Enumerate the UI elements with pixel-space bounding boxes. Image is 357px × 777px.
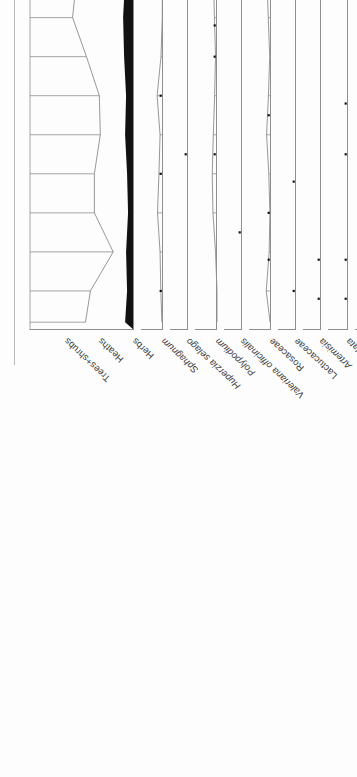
panel-baseline — [295, 0, 296, 330]
panel-valeriana-officinalis — [224, 0, 242, 330]
series-trees-shrubs-fill — [120, 0, 134, 330]
taxon-label-summary-0: Herbs — [129, 336, 155, 362]
panel-graph — [30, 0, 134, 330]
panel-baseline — [133, 0, 134, 330]
panel-baseline — [320, 0, 321, 330]
panel-graph — [170, 0, 188, 330]
taxon-label-summary-1: Heaths — [95, 336, 125, 365]
panel-value-axis — [170, 329, 188, 330]
panel-value-axis — [224, 329, 242, 330]
panel-baseline — [241, 0, 242, 330]
panel-baseline — [216, 0, 217, 330]
panel-summary — [30, 0, 134, 330]
panel-graph — [328, 0, 348, 330]
panel-value-axis — [278, 329, 296, 330]
panel-huperzia-selago — [170, 0, 188, 330]
panel-baseline — [270, 0, 271, 330]
panel-baseline — [162, 0, 163, 330]
rotated-figure-wrapper: 20406080100HerbsHeathsTrees+shrubsSphagn… — [0, 0, 357, 420]
pollen-diagram: 20406080100HerbsHeathsTrees+shrubsSphagn… — [0, 0, 357, 420]
panel-baseline — [347, 0, 348, 330]
series-heaths-line — [68, 0, 114, 322]
panel-graph — [224, 0, 242, 330]
panel-baseline — [187, 0, 188, 330]
panel-sphagnum — [141, 0, 163, 330]
panel-graph — [249, 0, 271, 330]
panel-value-axis — [30, 329, 134, 330]
panel-value-axis — [328, 329, 348, 330]
top-rule — [14, 0, 15, 365]
panel-value-axis — [303, 329, 321, 330]
panel-value-axis — [249, 329, 271, 330]
panel-graph — [195, 0, 217, 330]
panel-value-axis — [141, 329, 163, 330]
panel-rosaceae — [249, 0, 271, 330]
figure-page: 20406080100HerbsHeathsTrees+shrubsSphagn… — [0, 0, 357, 777]
panel-graph — [278, 0, 296, 330]
panel-value-axis — [195, 329, 217, 330]
panel-plantago-lanceolata — [328, 0, 348, 330]
panel-polypodium — [195, 0, 217, 330]
panel-graph — [303, 0, 321, 330]
panel-artemisia — [303, 0, 321, 330]
panel-lactucaceae — [278, 0, 296, 330]
panel-graph — [141, 0, 163, 330]
